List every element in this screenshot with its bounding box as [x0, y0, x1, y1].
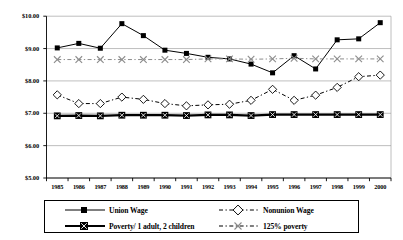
legend-marker-filled-square-x [63, 219, 107, 233]
y-tick-label: $8.00 [9, 77, 39, 84]
x-tick-label: 1995 [261, 183, 285, 190]
y-tick-label: $5.00 [9, 174, 39, 181]
x-tick-label: 1989 [131, 183, 155, 190]
x-tick-label: 1999 [347, 183, 371, 190]
y-tick-label: $9.00 [9, 45, 39, 52]
legend-label-125-poverty: 125% poverty [261, 222, 308, 231]
legend-item-125-poverty: 125% poverty [217, 218, 308, 234]
chart-figure: $10.00$9.00$8.00$7.00$6.00$5.00 19851986… [0, 0, 403, 240]
plot-svg [0, 0, 403, 196]
y-tick-label: $7.00 [9, 109, 39, 116]
legend-label-union-wage: Union Wage [107, 206, 148, 215]
y-tick-label: $10.00 [9, 12, 39, 19]
x-tick-label: 1991 [174, 183, 198, 190]
x-tick-label: 1996 [282, 183, 306, 190]
x-tick-label: 2000 [368, 183, 392, 190]
y-tick-label: $6.00 [9, 142, 39, 149]
legend-item-nonunion-wage: Nonunion Wage [217, 202, 314, 218]
x-tick-label: 1986 [67, 183, 91, 190]
legend-item-poverty: Poverty/ 1 adult, 2 children [63, 218, 194, 234]
chart-legend: Union Wage Nonunion Wage Poverty/ 1 [44, 200, 359, 233]
x-tick-label: 1994 [239, 183, 263, 190]
x-tick-label: 1985 [45, 183, 69, 190]
x-tick-label: 1997 [304, 183, 328, 190]
legend-item-union-wage: Union Wage [63, 202, 148, 218]
x-tick-label: 1990 [153, 183, 177, 190]
legend-marker-open-x [217, 219, 261, 233]
x-tick-label: 1992 [196, 183, 220, 190]
x-tick-label: 1988 [110, 183, 134, 190]
x-tick-label: 1993 [218, 183, 242, 190]
x-tick-label: 1998 [325, 183, 349, 190]
legend-marker-filled-square [63, 203, 107, 217]
x-tick-label: 1987 [88, 183, 112, 190]
legend-label-poverty: Poverty/ 1 adult, 2 children [107, 222, 194, 231]
legend-marker-open-diamond [217, 203, 261, 217]
plot-area [0, 0, 403, 196]
legend-label-nonunion-wage: Nonunion Wage [261, 206, 314, 215]
